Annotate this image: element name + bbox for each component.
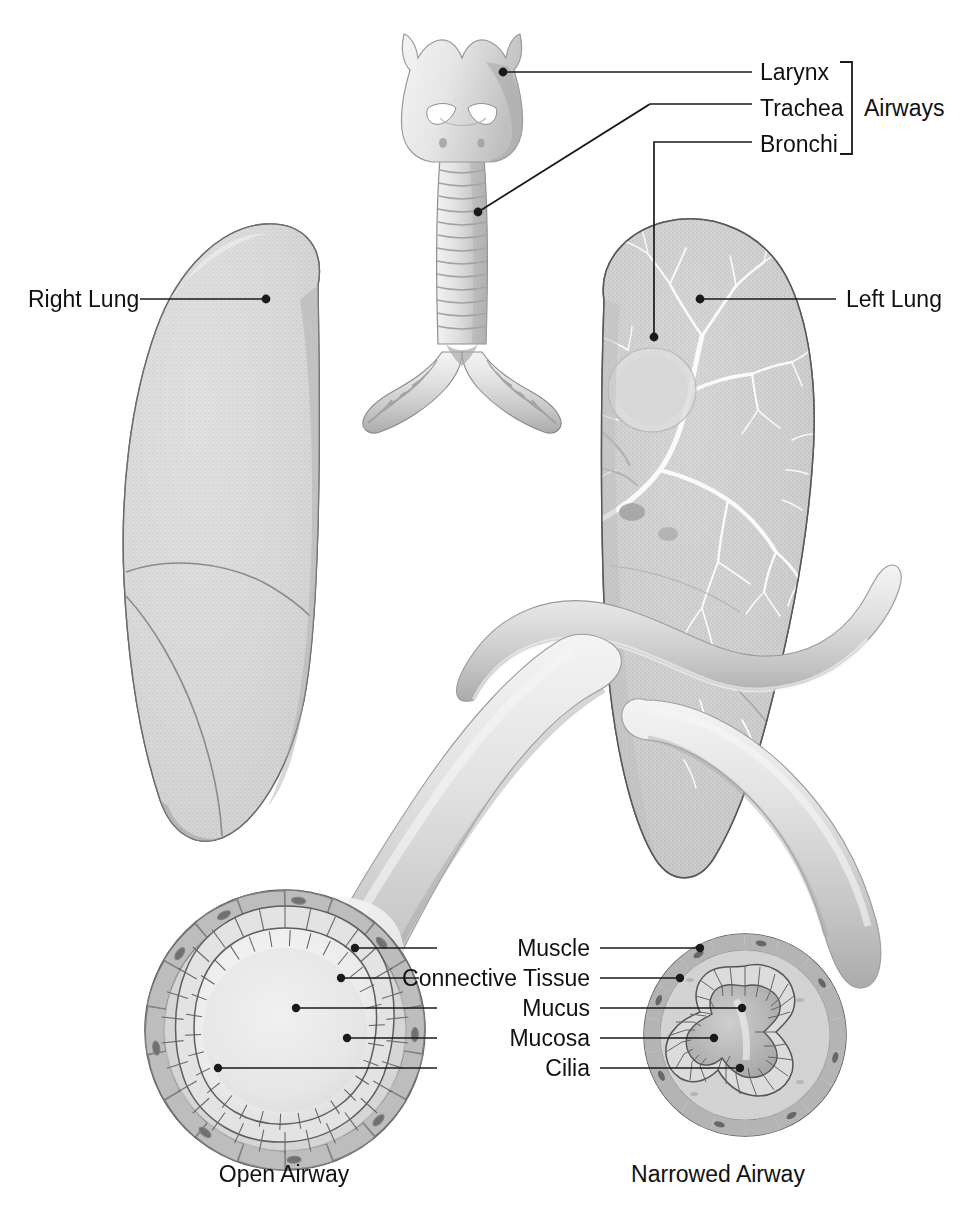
label-mucosa: Mucosa — [509, 1027, 590, 1050]
caption-open-airway: Open Airway — [219, 1161, 349, 1188]
right-lung-graphic — [110, 215, 340, 855]
larynx-and-trachea-group — [363, 34, 561, 433]
label-trachea: Trachea — [760, 97, 844, 120]
respiratory-system-illustration — [0, 0, 962, 1205]
label-bronchi: Bronchi — [760, 133, 838, 156]
bronchi-graphic — [363, 344, 561, 433]
label-airways-group: Airways — [864, 97, 945, 120]
larynx-graphic — [401, 34, 522, 162]
label-connective-tissue: Connective Tissue — [402, 967, 590, 990]
label-mucus: Mucus — [522, 997, 590, 1020]
label-muscle: Muscle — [517, 937, 590, 960]
label-right-lung: Right Lung — [28, 288, 139, 311]
diagram-canvas: Larynx Trachea Bronchi Airways Right Lun… — [0, 0, 962, 1205]
label-larynx: Larynx — [760, 61, 829, 84]
label-cilia: Cilia — [545, 1057, 590, 1080]
narrowed-airway-cross-section — [640, 928, 851, 1141]
label-left-lung: Left Lung — [846, 288, 942, 311]
caption-narrowed-airway: Narrowed Airway — [631, 1161, 805, 1188]
open-airway-cross-section — [139, 882, 431, 1177]
